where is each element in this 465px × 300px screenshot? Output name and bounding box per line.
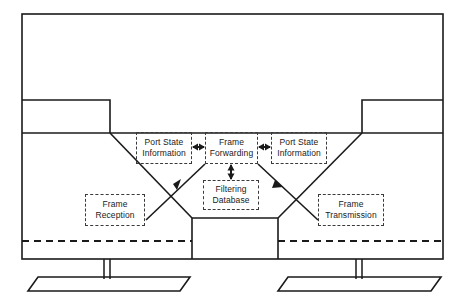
box-port-state-information-right-line1: Port State — [280, 137, 319, 148]
box-frame-forwarding[interactable]: Frame Forwarding — [205, 132, 258, 164]
box-frame-reception[interactable]: Frame Reception — [85, 194, 145, 226]
box-frame-forwarding-line2: Forwarding — [210, 148, 254, 159]
box-port-state-information-right[interactable]: Port State Information — [271, 132, 327, 164]
arrow-frame-reception-to-frame-forwarding — [146, 164, 205, 220]
box-filtering-database[interactable]: Filtering Database — [203, 180, 259, 210]
left-station-neck — [104, 259, 110, 279]
right-station-base — [278, 277, 441, 291]
box-frame-forwarding-line1: Frame — [219, 137, 244, 148]
arrow-frame-forwarding-to-port-state-right — [258, 144, 271, 151]
box-frame-reception-line2: Reception — [95, 210, 134, 221]
bridge-architecture-diagram: Port State Information Frame Forwarding … — [0, 0, 465, 300]
box-frame-transmission-line2: Transmission — [325, 210, 376, 221]
box-port-state-information-left-line2: Information — [142, 148, 186, 159]
box-port-state-information-left-line1: Port State — [145, 137, 184, 148]
right-station-shoulder — [362, 100, 443, 133]
left-station-base — [28, 277, 190, 291]
box-frame-transmission-line1: Frame — [338, 199, 363, 210]
box-frame-transmission[interactable]: Frame Transmission — [318, 194, 384, 226]
right-station-neck — [356, 259, 362, 279]
left-station-shoulder — [22, 100, 110, 133]
box-port-state-information-right-line2: Information — [277, 148, 321, 159]
box-port-state-information-left[interactable]: Port State Information — [136, 132, 192, 164]
arrow-port-state-left-to-frame-forwarding — [192, 144, 205, 151]
arrow-frame-forwarding-to-filtering-database — [228, 164, 235, 180]
box-filtering-database-line2: Database — [212, 195, 249, 206]
arrow-frame-forwarding-to-frame-transmission — [258, 164, 318, 220]
box-frame-reception-line1: Frame — [102, 199, 127, 210]
box-filtering-database-line1: Filtering — [215, 184, 246, 195]
